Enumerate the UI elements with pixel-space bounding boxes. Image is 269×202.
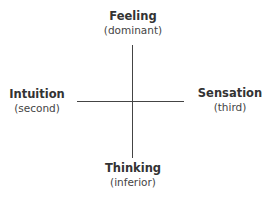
function-right-subtitle: (third): [192, 101, 268, 114]
function-bottom: Thinking (inferior): [92, 162, 174, 188]
function-left-subtitle: (second): [2, 102, 72, 115]
horizontal-axis-line: [77, 101, 184, 102]
function-bottom-title: Thinking: [92, 162, 174, 176]
function-top-title: Feeling: [92, 10, 174, 24]
function-left-title: Intuition: [2, 88, 72, 102]
function-bottom-subtitle: (inferior): [92, 176, 174, 189]
function-top: Feeling (dominant): [92, 10, 174, 36]
function-left: Intuition (second): [2, 88, 72, 114]
function-right-title: Sensation: [192, 87, 268, 101]
function-top-subtitle: (dominant): [92, 24, 174, 37]
function-right: Sensation (third): [192, 87, 268, 113]
